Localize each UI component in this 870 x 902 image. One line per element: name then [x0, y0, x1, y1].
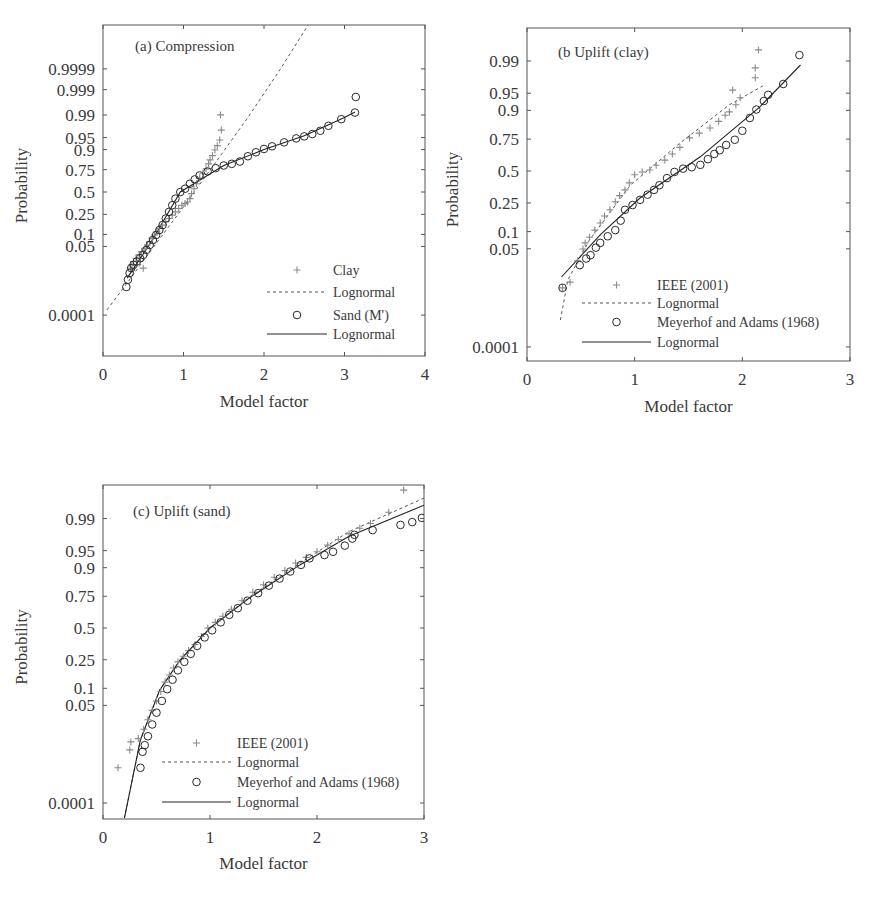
circle-marker — [141, 741, 149, 749]
plus-marker — [582, 239, 589, 246]
x-tick-label: 2 — [260, 365, 269, 384]
y-tick-label: 0.1 — [74, 225, 95, 244]
y-tick-label: 0.0001 — [48, 794, 95, 813]
y-axis: 0.00010.050.10.250.50.750.90.950.99 — [472, 52, 850, 357]
y-tick-label: 0.25 — [65, 651, 95, 670]
plus-marker — [140, 265, 147, 272]
legend-plus-marker — [294, 267, 301, 274]
legend: IEEE (2001) Lognormal Meyerhof and Adams… — [582, 278, 819, 350]
x-tick-label: 0 — [523, 370, 532, 389]
y-tick-label: 0.25 — [65, 205, 95, 224]
lognormal-fit-solid — [124, 505, 424, 818]
circle-marker — [704, 155, 712, 163]
plus-marker — [314, 548, 321, 555]
x-tick-label: 1 — [179, 365, 188, 384]
y-tick-label: 0.9 — [74, 559, 95, 578]
circle-marker — [611, 226, 619, 234]
circle-marker — [576, 261, 584, 269]
legend: Clay Lognormal Sand (M') Lognormal — [267, 263, 395, 342]
legend-label-clay: Clay — [333, 263, 359, 278]
circle-marker — [181, 658, 189, 666]
y-tick-label: 0.95 — [65, 542, 95, 561]
plus-marker — [144, 716, 151, 723]
x-tick-label: 4 — [421, 365, 430, 384]
circle-marker — [716, 146, 724, 154]
x-axis: 0123 — [99, 485, 429, 847]
y-tick-label: 0.1 — [74, 679, 95, 698]
plus-marker — [218, 127, 225, 134]
plus-marker — [586, 234, 593, 241]
plus-marker — [707, 124, 714, 131]
x-tick-label: 1 — [206, 828, 215, 847]
plus-marker — [114, 764, 121, 771]
panel-title: (a) Compression — [135, 38, 235, 55]
chart-panel-b: 0123 0.00010.050.10.250.50.750.90.950.99… — [443, 28, 854, 416]
circle-marker — [352, 93, 360, 101]
circle-marker — [191, 176, 199, 184]
circle-marker — [722, 141, 730, 149]
plus-marker — [612, 198, 619, 205]
y-axis-label: Probability — [443, 151, 462, 227]
y-tick-label: 0.05 — [65, 696, 95, 715]
plus-marker — [591, 227, 598, 234]
y-tick-label: 0.75 — [489, 130, 519, 149]
circle-marker — [174, 667, 182, 675]
panel-title: (c) Uplift (sand) — [133, 503, 230, 520]
circle-marker — [137, 764, 145, 772]
plus-marker — [616, 192, 623, 199]
legend-circle-marker — [193, 778, 201, 786]
chart-panel-c: 0123 0.00010.050.10.250.50.750.90.950.99… — [12, 485, 428, 873]
plus-marker — [653, 162, 660, 169]
plot-frame — [527, 28, 850, 361]
x-tick-label: 2 — [313, 828, 322, 847]
plus-marker — [726, 108, 733, 115]
legend-label-sand: Sand (M') — [333, 308, 389, 324]
legend-label-meyerhof: Meyerhof and Adams (1968) — [237, 775, 399, 791]
plus-marker — [752, 74, 759, 81]
y-tick-label: 0.75 — [65, 161, 95, 180]
x-tick-label: 3 — [846, 370, 855, 389]
legend: IEEE (2001) Lognormal Meyerhof and Adams… — [162, 736, 399, 810]
plus-marker — [621, 186, 628, 193]
y-tick-label: 0.9 — [498, 101, 519, 120]
plus-marker — [400, 487, 407, 494]
plus-marker — [601, 212, 608, 219]
circle-marker — [688, 163, 696, 171]
circle-marker — [351, 109, 359, 117]
plus-marker — [178, 202, 185, 209]
plus-marker — [696, 130, 703, 137]
y-tick-label: 0.1 — [498, 223, 519, 242]
circle-marker — [592, 244, 600, 252]
plus-marker — [162, 679, 169, 686]
panel-title: (b Uplift (clay) — [558, 44, 649, 61]
plus-marker — [737, 94, 744, 101]
plus-marker — [606, 206, 613, 213]
x-tick-label: 0 — [99, 828, 108, 847]
plus-marker — [661, 157, 668, 164]
chart-panel-a: 01234 0.00010.050.10.250.50.750.90.950.9… — [12, 25, 430, 411]
circle-marker — [604, 232, 612, 240]
circle-marker — [369, 526, 377, 534]
circle-marker — [208, 627, 216, 635]
y-tick-label: 0.25 — [489, 194, 519, 213]
legend-circle-marker — [613, 318, 621, 326]
y-tick-label: 0.75 — [65, 587, 95, 606]
x-axis-label: Model factor — [644, 397, 733, 416]
y-axis-label: Probability — [12, 609, 31, 685]
circle-marker — [739, 127, 747, 135]
legend-label-ieee: IEEE (2001) — [237, 736, 308, 752]
plot-frame — [103, 25, 425, 356]
lognormal-fit-dashed — [124, 498, 424, 818]
plus-marker — [126, 746, 133, 753]
legend-label-ieee: IEEE (2001) — [657, 278, 728, 294]
plus-marker — [715, 118, 722, 125]
x-tick-label: 3 — [420, 828, 429, 847]
data-points — [123, 93, 360, 291]
plus-marker — [755, 46, 762, 53]
plus-marker — [217, 111, 224, 118]
y-tick-label: 0.95 — [489, 84, 519, 103]
legend-label-lognormal-dashed: Lognormal — [333, 285, 395, 300]
plus-marker — [631, 171, 638, 178]
circle-marker — [144, 732, 152, 740]
y-tick-label: 0.99 — [65, 106, 95, 125]
